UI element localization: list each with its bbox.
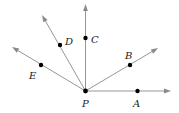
point-D xyxy=(58,43,62,47)
arrowhead-icon xyxy=(42,15,48,22)
label-D: D xyxy=(64,36,73,47)
arrowhead-icon xyxy=(164,89,171,94)
ray-PD xyxy=(45,21,85,91)
ray-PB xyxy=(86,52,152,91)
point-E xyxy=(39,63,43,67)
label-B: B xyxy=(124,50,132,61)
ray-diagram: ABCDEP xyxy=(0,0,179,113)
label-A: A xyxy=(132,98,140,109)
point-P xyxy=(83,89,88,94)
point-C xyxy=(83,36,87,40)
arrowhead-icon xyxy=(83,4,88,11)
arrowhead-icon xyxy=(12,47,19,53)
label-E: E xyxy=(28,70,37,81)
point-B xyxy=(128,63,132,67)
point-A xyxy=(135,89,139,93)
label-C: C xyxy=(91,34,99,45)
labels-layer: ABCDEP xyxy=(28,34,140,109)
arrowhead-icon xyxy=(151,48,158,54)
points-layer xyxy=(39,36,140,94)
label-P: P xyxy=(81,98,89,109)
